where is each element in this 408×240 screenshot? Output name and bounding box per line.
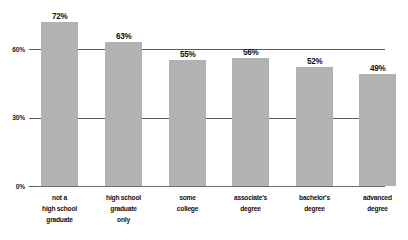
bar-bachelors-degree[interactable]	[296, 67, 333, 186]
bar-group-4: 52% bachelor's degree	[286, 0, 343, 240]
bar-label-5-line-1: degree	[350, 203, 405, 214]
bar-group-3: 56% associate's degree	[222, 0, 279, 240]
bar-label-2-line-0: some	[160, 192, 215, 203]
bar-advanced-degree[interactable]	[359, 74, 396, 186]
bar-label-2: some college	[160, 192, 215, 214]
plot-area: 60% 30% 0% 72% not a high school graduat…	[0, 0, 408, 240]
bar-group-0: 72% not a high school graduate	[31, 0, 88, 240]
ytick-label-0: 0%	[3, 183, 25, 191]
bar-label-1: high school graduate only	[96, 192, 151, 226]
bar-value-3: 56%	[225, 48, 277, 57]
bar-not-a-high-school-graduate[interactable]	[41, 22, 78, 186]
bar-label-1-line-0: high school	[96, 192, 151, 203]
bar-associates-degree[interactable]	[232, 58, 269, 186]
bar-label-0-line-0: not a	[32, 192, 87, 203]
bar-label-4-line-0: bachelor's	[287, 192, 342, 203]
bar-group-5: 49% advanced degree	[349, 0, 406, 240]
bar-value-0: 72%	[34, 12, 86, 21]
bar-label-0-line-1: high school	[32, 203, 87, 214]
bar-label-4: bachelor's degree	[287, 192, 342, 214]
bar-chart: 60% 30% 0% 72% not a high school graduat…	[0, 0, 408, 240]
bar-group-2: 55% some college	[159, 0, 216, 240]
bar-label-5: advanced degree	[350, 192, 405, 214]
bar-label-5-line-0: advanced	[350, 192, 405, 203]
bar-label-1-line-2: only	[96, 214, 151, 225]
ytick-label-30: 30%	[3, 114, 25, 122]
bar-label-4-line-1: degree	[287, 203, 342, 214]
bar-label-1-line-1: graduate	[96, 203, 151, 214]
bar-value-5: 49%	[352, 64, 404, 73]
bar-label-2-line-1: college	[160, 203, 215, 214]
bar-label-3: associate's degree	[223, 192, 278, 214]
bar-value-1: 63%	[98, 32, 150, 41]
bar-label-0: not a high school graduate	[32, 192, 87, 226]
ytick-label-60: 60%	[3, 46, 25, 54]
bar-group-1: 63% high school graduate only	[95, 0, 152, 240]
bar-high-school-graduate-only[interactable]	[105, 42, 142, 186]
bar-label-0-line-2: graduate	[32, 214, 87, 225]
bar-value-2: 55%	[162, 50, 214, 59]
bar-label-3-line-1: degree	[223, 203, 278, 214]
bar-some-college[interactable]	[169, 60, 206, 186]
bar-value-4: 52%	[289, 57, 341, 66]
bar-label-3-line-0: associate's	[223, 192, 278, 203]
